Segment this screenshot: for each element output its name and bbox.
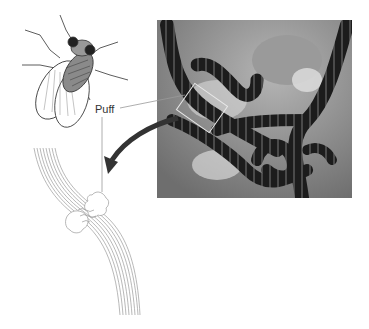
puff-label: Puff	[95, 103, 114, 115]
callout-line-to-photo	[120, 95, 185, 108]
diagram-overlay	[0, 0, 369, 329]
curved-arrow-icon	[104, 118, 178, 174]
chromosome-puff-drawing	[34, 148, 140, 315]
